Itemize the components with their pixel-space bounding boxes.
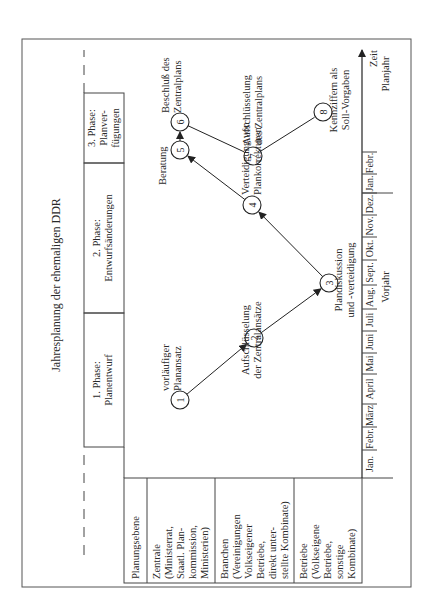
step-label-line: Kennziffern als [328, 55, 340, 145]
step-label: Aufschlüsselungdes Zentralplans [241, 75, 265, 145]
flow-arrow [261, 117, 315, 151]
month-label: Juni [364, 331, 376, 353]
flow-arrow [259, 212, 323, 276]
step-label: vorläufigerPlanansatz [160, 344, 184, 391]
phase-1-label: 1. Phase: Planentwurf [91, 313, 115, 447]
plan-year-label: Planjahr [380, 52, 392, 96]
step-number: 5 [175, 148, 186, 153]
month-label: April [364, 374, 376, 404]
step-number: 4 [247, 203, 258, 208]
level-row-line: Volkseigener [243, 501, 255, 579]
level-row-branchen: Branchen(VereinigungenVolkseigenerBetrie… [219, 501, 291, 579]
level-row-line: Betriebe [298, 524, 310, 579]
step-label-line: Aufschlüsselung [241, 75, 253, 145]
level-row-zentrale: Zentrale(Ministerrat,Staatl. Plan-kommis… [151, 525, 211, 579]
level-row-line: Zentrale [151, 525, 163, 579]
step-label-line: Planansatz [172, 344, 184, 391]
level-row-line: Staatl. Plan- [175, 525, 187, 579]
phase-3-label: 3. Phase: Planver- fügungen [86, 93, 122, 163]
month-label: Nov. [364, 215, 376, 237]
level-row-line: kommission, [187, 525, 199, 579]
step-number: 1 [175, 398, 186, 403]
step-label-line: des Zentralplans [253, 75, 265, 145]
step-label: Beratung [157, 147, 169, 186]
step-label-line: vorläufiger [160, 344, 172, 391]
phase-2-name: Entwurfsänderungen [103, 163, 115, 313]
prior-year-label: Vorjahr [380, 96, 392, 478]
phase-3-name-1: Planver- [98, 93, 110, 163]
level-row-line: (Volkseigene [310, 524, 322, 579]
level-row-line: sonstige [334, 524, 346, 579]
month-label: Dez. [364, 193, 376, 215]
phase-3-number: 3. Phase: [86, 93, 98, 163]
step-node: 5 [171, 141, 189, 159]
axis-time-label: Zeit [368, 50, 380, 67]
level-row-line: (Vereinigungen [231, 501, 243, 579]
diagram-canvas: 12345678 Jahresplanung der ehemaligen DD… [0, 0, 431, 615]
step-label-line: Zentralplans [172, 57, 184, 113]
phase-2-label: 2. Phase: Entwurfsänderungen [91, 163, 115, 313]
level-row-line: Betriebe, [255, 501, 267, 579]
step-label: Plandiskussionund -verteidigung [333, 235, 357, 325]
month-label: Jan. [364, 174, 376, 193]
month-label: Febr. [364, 152, 376, 174]
level-row-line: Kombinate) [346, 524, 358, 579]
step-number: 8 [318, 110, 329, 115]
step-label: Aufschlüsselungder Zentralansätze [240, 295, 264, 385]
phase-1-name: Planentwurf [103, 313, 115, 447]
level-row-betriebe: Betriebe(VolkseigeneBetriebe,sonstigeKom… [298, 524, 358, 579]
step-number: 6 [175, 120, 186, 125]
step-node: 1 [171, 391, 189, 409]
flow-arrow [188, 156, 245, 199]
step-label-line: Aufschlüsselung [240, 295, 252, 385]
phase-2-number: 2. Phase: [91, 163, 103, 313]
step-label-line: Plandiskussion [333, 235, 345, 325]
step-label-line: und -verteidigung [345, 235, 357, 325]
step-node: 6 [171, 113, 189, 131]
month-label: Febr. [364, 427, 376, 450]
level-row-line: stellte Kombinate) [279, 501, 291, 579]
level-row-line: Betriebe, [322, 524, 334, 579]
phase-1-number: 1. Phase: [91, 313, 103, 447]
level-row-line: (Ministerrat, [163, 525, 175, 579]
step-label-line: Beschluß des [160, 57, 172, 113]
flow-arrow [188, 126, 244, 152]
month-label: Okt. [364, 237, 376, 260]
flow-arrow [261, 289, 321, 333]
month-label: März [364, 404, 376, 427]
level-row-line: Ministerien) [199, 525, 211, 579]
step-label: Kennziffern alsSoll-Vorgaben [328, 55, 352, 145]
diagram-title: Jahresplanung der ehemaligen DDR [50, 135, 62, 435]
step-label-line: der Zentralansätze [252, 295, 264, 385]
month-label: Sept. [364, 260, 376, 285]
step-node: 4 [243, 196, 261, 214]
step-label: Beschluß desZentralplans [160, 57, 184, 113]
month-label: Juli [364, 309, 376, 331]
level-row-line: Branchen [219, 501, 231, 579]
flow-arrow [187, 344, 246, 394]
month-label: Jan. [364, 450, 376, 478]
step-label-line: Soll-Vorgaben [340, 55, 352, 145]
level-header: Planungsebene [130, 516, 142, 579]
step-label-line: Beratung [157, 147, 169, 186]
month-label: Aug. [364, 285, 376, 309]
month-label: Mai [364, 353, 376, 374]
phase-3-name-2: fügungen [110, 93, 122, 163]
level-row-line: direkt unter- [267, 501, 279, 579]
